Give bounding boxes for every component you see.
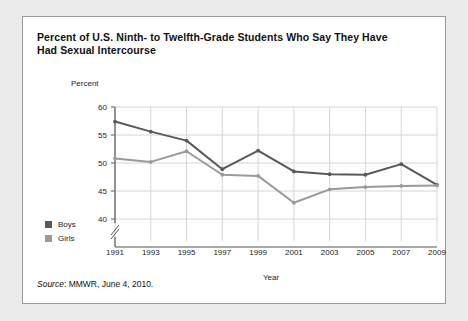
line-chart: 4045505560199119931995199719992001200320… xyxy=(23,69,447,269)
data-point-boys xyxy=(328,172,332,176)
chart-panel: Percent of U.S. Ninth- to Twelfth-Grade … xyxy=(22,16,446,304)
x-tick-label: 2003 xyxy=(321,248,339,257)
data-point-girls xyxy=(364,185,368,189)
data-point-boys xyxy=(185,139,189,143)
series-line-girls xyxy=(115,151,437,203)
data-point-girls xyxy=(328,187,332,191)
x-tick-label: 1997 xyxy=(213,248,231,257)
x-tick-label: 2001 xyxy=(285,248,303,257)
y-tick-label: 45 xyxy=(98,187,107,196)
source-caption: Source: MMWR, June 4, 2010. xyxy=(37,279,153,289)
plot-area: 4045505560199119931995199719992001200320… xyxy=(23,69,447,269)
source-prefix: Source xyxy=(37,279,64,289)
data-point-boys xyxy=(256,149,260,153)
data-point-boys xyxy=(113,120,117,124)
data-point-boys xyxy=(292,170,296,174)
y-tick-label: 60 xyxy=(98,103,107,112)
data-point-girls xyxy=(220,173,224,177)
data-point-girls xyxy=(292,201,296,205)
x-tick-label: 1995 xyxy=(178,248,196,257)
x-tick-label: 1999 xyxy=(249,248,267,257)
y-tick-label: 55 xyxy=(98,131,107,140)
data-point-girls xyxy=(435,184,439,188)
data-point-boys xyxy=(220,167,224,171)
data-point-girls xyxy=(185,149,189,153)
data-point-boys xyxy=(364,173,368,177)
x-axis-title: Year xyxy=(263,273,279,282)
x-tick-label: 2009 xyxy=(428,248,446,257)
x-tick-label: 1993 xyxy=(142,248,160,257)
y-tick-label: 50 xyxy=(98,159,107,168)
y-tick-label: 40 xyxy=(98,215,107,224)
x-tick-label: 2007 xyxy=(392,248,410,257)
x-tick-label: 1991 xyxy=(106,248,124,257)
x-tick-label: 2005 xyxy=(357,248,375,257)
data-point-girls xyxy=(256,174,260,178)
page-title: Percent of U.S. Ninth- to Twelfth-Grade … xyxy=(37,31,397,57)
data-point-boys xyxy=(149,130,153,134)
data-point-boys xyxy=(399,162,403,166)
data-point-girls xyxy=(113,157,117,161)
source-text: : MMWR, June 4, 2010. xyxy=(64,279,153,289)
data-point-girls xyxy=(149,160,153,164)
series-line-boys xyxy=(115,122,437,185)
data-point-girls xyxy=(399,184,403,188)
